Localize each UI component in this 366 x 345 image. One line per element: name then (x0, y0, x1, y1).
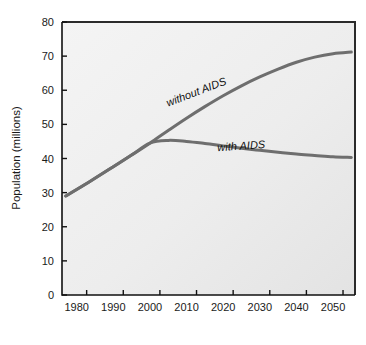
y-tick-label: 50 (42, 118, 54, 130)
x-tick-label: 2000 (138, 301, 162, 313)
population-line-chart: 01020304050607080 1980199020002010202020… (0, 0, 366, 345)
x-tick-label: 2050 (321, 301, 345, 313)
x-tick-label: 1990 (101, 301, 125, 313)
x-tick-label: 2030 (248, 301, 272, 313)
y-tick-label: 40 (42, 153, 54, 165)
x-tick-label: 1980 (64, 301, 88, 313)
chart-container: 01020304050607080 1980199020002010202020… (0, 0, 366, 345)
y-axis-title: Population (millions) (10, 106, 22, 210)
x-tick-label: 2020 (211, 301, 235, 313)
y-tick-label: 0 (48, 289, 54, 301)
y-tick-label: 20 (42, 221, 54, 233)
y-tick-label: 80 (42, 16, 54, 28)
y-tick-label: 30 (42, 187, 54, 199)
y-axis-tick-labels: 01020304050607080 (42, 16, 54, 301)
x-tick-label: 2040 (284, 301, 308, 313)
y-tick-label: 10 (42, 255, 54, 267)
y-tick-label: 70 (42, 50, 54, 62)
plot-area-background (62, 22, 355, 295)
y-tick-label: 60 (42, 84, 54, 96)
x-tick-label: 2010 (174, 301, 198, 313)
